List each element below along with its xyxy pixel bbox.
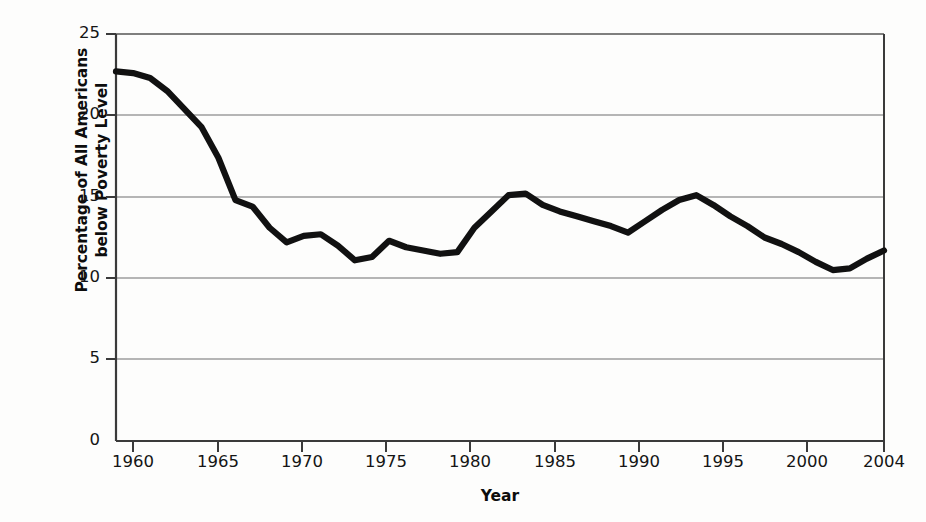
x-axis-ticks [133,441,884,452]
y-axis-ticks [106,34,116,359]
poverty-rate-series-line [116,71,884,270]
poverty-rate-line-chart: Percentage of All Americans below Povert… [0,0,926,522]
plot-area [0,0,926,522]
